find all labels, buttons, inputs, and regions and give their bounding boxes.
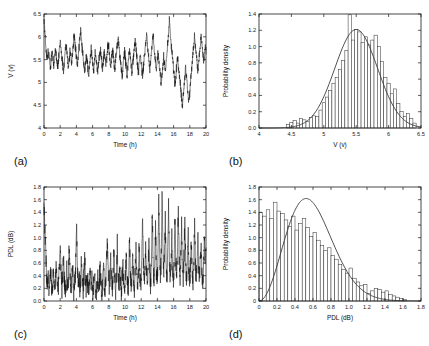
x-tick-label: 0 — [257, 304, 260, 310]
figure-four-panel-pdl-voltage: 0246810121416182044.555.566.5Time (h)V (… — [0, 0, 429, 346]
histogram-bar — [338, 264, 342, 301]
y-tick-label: 6.5 — [33, 11, 41, 17]
y-tick-label: 1.4 — [33, 209, 41, 215]
histogram-bar — [361, 43, 364, 129]
histogram-bar — [345, 51, 348, 128]
histogram-bar — [327, 248, 331, 301]
y-tick-label: 1.0 — [248, 235, 256, 241]
x-tick-label: 18 — [187, 131, 193, 137]
histogram-bar — [342, 60, 345, 128]
panel-a-voltage-time-series: 0246810121416182044.555.566.5Time (h)V (… — [0, 0, 214, 173]
x-tick-label: 0 — [42, 304, 45, 310]
y-tick-label: 1.0 — [33, 235, 41, 241]
x-tick-label: 4 — [75, 304, 78, 310]
histogram-bar — [313, 233, 317, 301]
x-tick-label: 6 — [387, 131, 390, 137]
histogram-bar — [364, 37, 367, 128]
histogram-bar — [299, 224, 303, 301]
pdl-time-series-plot-area — [44, 191, 206, 301]
y-tick-label: 0.4 — [248, 273, 256, 279]
voltage-histogram-canvas: 44.555.566.50.00.20.40.60.81.01.21.4V (v… — [215, 0, 429, 173]
histogram-bar — [306, 228, 310, 301]
y-tick-label: 1.0 — [248, 44, 256, 50]
histogram-bar — [316, 117, 319, 128]
voltage-time-series-x-axis: 02468101214161820 — [42, 14, 209, 137]
histogram-bar — [291, 216, 295, 301]
x-tick-label: 20 — [203, 304, 209, 310]
x-tick-label: 2 — [59, 131, 62, 137]
histogram-bar — [317, 240, 321, 301]
x-tick-label: 16 — [170, 131, 176, 137]
histogram-bar — [378, 290, 382, 301]
histogram-bar — [263, 216, 267, 301]
y-tick-label: 1.2 — [248, 27, 256, 33]
x-tick-label: 16 — [170, 304, 176, 310]
voltage-time-series-y-axis: 44.555.566.5 — [33, 11, 206, 131]
x-tick-label: 20 — [203, 131, 209, 137]
x-tick-label: 18 — [187, 304, 193, 310]
histogram-bar — [403, 117, 406, 128]
histogram-bar — [400, 112, 403, 128]
y-tick-label: 0.4 — [33, 273, 41, 279]
histogram-bar — [335, 78, 338, 128]
histogram-bar — [406, 113, 409, 128]
y-tick-label: 4.5 — [33, 102, 41, 108]
histogram-bar — [281, 214, 285, 301]
histogram-bar — [349, 268, 353, 301]
histogram-bar — [351, 40, 354, 128]
x-tick-label: 4 — [75, 131, 78, 137]
y-tick-label: 1.4 — [248, 209, 256, 215]
x-tick-label: 1.0 — [345, 304, 353, 310]
y-tick-label: 0 — [253, 298, 256, 304]
pdl-time-series-canvas: 024681012141618200.00.20.40.60.81.01.21.… — [0, 173, 214, 346]
panel-c-pdl-time-series: 024681012141618200.00.20.40.60.81.01.21.… — [0, 173, 214, 346]
pdl-time-series-y-axis-title: PDL (dB) — [7, 231, 15, 257]
x-tick-label: 10 — [122, 304, 128, 310]
histogram-bar — [410, 118, 413, 128]
voltage-time-series-axes-box — [44, 14, 206, 128]
y-tick-label: 5 — [38, 79, 41, 85]
histogram-bar — [309, 236, 313, 301]
x-tick-label: 6.5 — [417, 131, 425, 137]
x-tick-label: 1.4 — [381, 304, 389, 310]
histogram-bar — [302, 219, 306, 301]
voltage-time-series-canvas: 0246810121416182044.555.566.5Time (h)V (… — [0, 0, 214, 173]
histogram-bar — [377, 47, 380, 128]
y-tick-label: 4 — [38, 125, 41, 131]
histogram-bar — [320, 245, 324, 301]
histogram-bar — [324, 250, 328, 301]
histogram-bar — [338, 69, 341, 128]
voltage-time-series-x-axis-title: Time (h) — [113, 141, 137, 149]
y-tick-label: 0.2 — [248, 285, 256, 291]
voltage-time-series-plot-area — [44, 16, 206, 108]
x-tick-label: 2 — [59, 304, 62, 310]
histogram-bar — [374, 35, 377, 128]
panel-d-pdl-histogram: 00.20.40.60.81.01.21.41.61.800.20.40.60.… — [215, 173, 429, 346]
histogram-bar — [381, 61, 384, 128]
pdl-time-series-x-axis-title: Time (h) — [113, 314, 137, 322]
x-tick-label: 0 — [42, 131, 45, 137]
histogram-bar — [325, 97, 328, 128]
histogram-bar — [355, 29, 358, 128]
voltage-histogram-tag: (b) — [229, 155, 242, 167]
pdl-histogram-plot-area — [259, 199, 421, 301]
histogram-bar — [306, 121, 309, 128]
y-tick-label: 1.8 — [248, 184, 256, 190]
histogram-bar — [312, 116, 315, 128]
voltage-time-series-tag: (a) — [14, 155, 27, 167]
y-tick-label: 6 — [38, 34, 41, 40]
x-tick-label: 5.5 — [352, 131, 360, 137]
x-tick-label: 12 — [138, 131, 144, 137]
y-tick-label: 0.2 — [248, 109, 256, 115]
histogram-bar — [300, 118, 303, 128]
histogram-bar — [348, 15, 351, 128]
x-tick-label: 5 — [322, 131, 325, 137]
x-tick-label: 1.8 — [417, 304, 425, 310]
y-tick-label: 0.6 — [33, 260, 41, 266]
histogram-bar — [288, 226, 292, 301]
x-tick-label: 1.6 — [399, 304, 407, 310]
y-tick-label: 1.2 — [33, 222, 41, 228]
y-tick-label: 0.8 — [248, 60, 256, 66]
histogram-bar — [332, 83, 335, 128]
voltage-histogram-x-axis-title: V (v) — [333, 141, 347, 149]
